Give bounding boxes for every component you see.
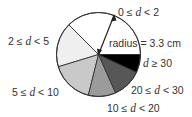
radius-annotation: radius = 3.3 cm	[109, 37, 181, 49]
label-0-to-2: 0 ≤ d < 2	[118, 6, 159, 18]
label-30-plus: d ≥ 30	[143, 57, 172, 69]
label-5-to-10: 5 ≤ d < 10	[12, 86, 59, 98]
pie-chart: 0 ≤ d < 2 2 ≤ d < 5 radius = 3.3 cm d ≥ …	[0, 0, 192, 117]
label-2-to-5: 2 ≤ d < 5	[8, 35, 49, 47]
label-20-to-30: 20 ≤ d < 30	[131, 84, 184, 96]
label-10-to-20: 10 ≤ d < 20	[107, 102, 160, 114]
pie-chart-svg: 0 ≤ d < 2 2 ≤ d < 5 radius = 3.3 cm d ≥ …	[0, 0, 192, 117]
